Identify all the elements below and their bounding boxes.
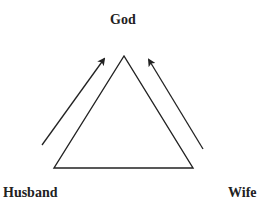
diagram-canvas — [0, 0, 259, 207]
node-label-husband: Husband — [3, 186, 57, 200]
node-label-god: God — [110, 13, 136, 27]
triangle-shape — [54, 56, 193, 168]
node-label-wife: Wife — [228, 186, 257, 200]
arrow-wife-to-god — [149, 60, 203, 149]
